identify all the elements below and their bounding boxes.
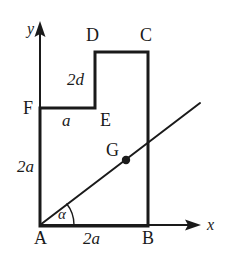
lamina-outline (40, 52, 148, 226)
centroid-point-g (122, 156, 130, 164)
figure-canvas (0, 0, 229, 253)
x-axis-label: x (207, 217, 214, 233)
angle-label-alpha: α (58, 207, 66, 222)
dimension-label-2d: 2d (67, 71, 84, 88)
dimension-label-a: a (62, 112, 71, 129)
vertex-label-f: F (23, 99, 33, 117)
vertex-label-g: G (106, 141, 119, 159)
vertex-label-c: C (140, 26, 152, 44)
dimension-label-2a-left: 2a (17, 158, 34, 175)
vertex-label-b: B (142, 229, 154, 247)
vertex-label-e: E (100, 111, 111, 129)
angle-arc-alpha (67, 204, 75, 226)
y-axis-label: y (27, 21, 34, 37)
geometry-figure: y x D C F E G A B 2d a 2a 2a α (0, 0, 229, 253)
vertex-label-a: A (34, 229, 47, 247)
dimension-label-2a-bottom: 2a (83, 230, 100, 247)
vertex-label-d: D (86, 26, 99, 44)
